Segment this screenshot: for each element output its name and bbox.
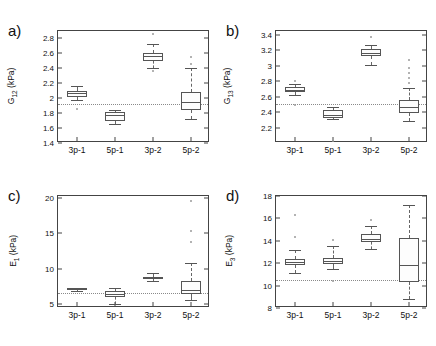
panel-a-ytick-mark-right (204, 143, 208, 144)
box-iqr (181, 281, 201, 294)
outlier-point (408, 67, 410, 69)
outlier-point (190, 230, 192, 232)
outlier-point (408, 59, 410, 61)
box-iqr (399, 238, 419, 282)
whisker-upper (409, 205, 410, 238)
whisker-upper (191, 263, 192, 281)
figure-boxplot-grid: a) G12 (kPa) 1.41.61.822.22.42.62.83p-15… (0, 0, 436, 346)
whisker-lower (409, 113, 410, 121)
panel-b-xtick-label-5p-1: 5p-1 (324, 141, 341, 155)
panel-d-ytick-label: 8 (268, 304, 276, 313)
panel-c-ytick-label: 15 (45, 229, 58, 238)
panel-d-xtick-label-5p-2: 5p-2 (400, 306, 417, 320)
panel-c-plot-area: 51015203p-15p-13p-25p-2 (57, 195, 209, 307)
cap-upper (403, 205, 415, 206)
cap-upper (185, 68, 197, 69)
panel-c-xtick-label-3p-2: 3p-2 (144, 306, 161, 320)
outlier-point (408, 72, 410, 74)
panel-b: b) G13 (kPa) 2.22.42.62.833.23.43p-15p-1… (218, 0, 436, 173)
panel-a-letter: a) (8, 22, 21, 39)
outlier-point (190, 63, 192, 65)
whisker-upper (409, 88, 410, 100)
panel-a-ytick-label: 2.4 (43, 64, 58, 73)
panel-c-letter: c) (8, 187, 21, 204)
panel-a-ytick-label: 2 (50, 94, 58, 103)
panel-d-ylabel: E3 (kPa) (224, 221, 236, 281)
panel-d-xtick-label-3p-1: 3p-1 (286, 306, 303, 320)
panel-b-ytick-label: 3.4 (261, 30, 276, 39)
panel-c-ytick-label: 10 (45, 264, 58, 273)
panel-c-ylabel-units: (kPa) (8, 235, 18, 255)
cap-lower (403, 121, 415, 122)
panel-a-ytick-label: 2.6 (43, 49, 58, 58)
panel-b-plot-area: 2.22.42.62.833.23.43p-15p-13p-25p-2 (275, 30, 427, 142)
median-line (181, 102, 201, 103)
whisker-upper (191, 68, 192, 92)
panel-a-ytick-label: 2.8 (43, 34, 58, 43)
panel-a-xtick-label-5p-1: 5p-1 (106, 141, 123, 155)
cap-lower (185, 119, 197, 120)
panel-b-ytick-label: 3 (268, 61, 276, 70)
panel-a-box-5p-2 (58, 31, 208, 141)
panel-b-box-5p-2 (276, 31, 426, 141)
panel-c-xtick-label-5p-1: 5p-1 (106, 306, 123, 320)
panel-d-xtick-label-5p-1: 5p-1 (324, 306, 341, 320)
panel-a-xtick-label-5p-2: 5p-2 (182, 141, 199, 155)
panel-b-ylabel-units: (kPa) (222, 68, 232, 88)
panel-a-ytick-label: 2.2 (43, 79, 58, 88)
panel-d: d) E3 (kPa) 810121416183p-15p-13p-25p-2 (218, 173, 436, 346)
panel-d-ytick-mark-right (422, 308, 426, 309)
panel-a-ytick-label: 1.8 (43, 109, 58, 118)
panel-c-xtick-label-5p-2: 5p-2 (182, 306, 199, 320)
outlier-point (408, 82, 410, 84)
cap-lower (185, 300, 197, 301)
outlier-point (190, 56, 192, 58)
panel-b-ytick-label: 2.6 (261, 92, 276, 101)
panel-b-xtick-label-3p-1: 3p-1 (286, 141, 303, 155)
panel-c-box-5p-2 (58, 196, 208, 306)
panel-d-ytick-label: 16 (263, 214, 276, 223)
panel-b-letter: b) (226, 22, 239, 39)
panel-c-ylabel-base: E (8, 261, 18, 267)
panel-d-ytick-label: 14 (263, 236, 276, 245)
cap-upper (185, 263, 197, 264)
panel-b-ytick-label: 3.2 (261, 46, 276, 55)
panel-d-plot-area: 810121416183p-15p-13p-25p-2 (275, 195, 427, 307)
panel-b-ytick-label: 2.8 (261, 77, 276, 86)
median-line (399, 107, 419, 108)
panel-a-ylabel: G12 (kPa) (6, 56, 18, 116)
panel-d-ylabel-units: (kPa) (224, 235, 234, 255)
whisker-lower (191, 110, 192, 119)
panel-a-xtick-label-3p-1: 3p-1 (68, 141, 85, 155)
panel-d-ytick-label: 18 (263, 192, 276, 201)
whisker-lower (409, 282, 410, 299)
panel-a-ytick-label: 1.6 (43, 124, 58, 133)
panel-c-ytick-label: 20 (45, 194, 58, 203)
panel-a-plot-area: 1.41.61.822.22.42.62.83p-15p-13p-25p-2 (57, 30, 209, 142)
panel-a: a) G12 (kPa) 1.41.61.822.22.42.62.83p-15… (0, 0, 218, 173)
outlier-point (190, 241, 192, 243)
panel-a-ylabel-units: (kPa) (6, 68, 16, 88)
panel-d-ytick-label: 10 (263, 281, 276, 290)
median-line (181, 290, 201, 291)
panel-b-xtick-label-3p-2: 3p-2 (362, 141, 379, 155)
panel-d-ytick-mark (276, 308, 280, 309)
outlier-point (408, 77, 410, 79)
panel-c: c) E1 (kPa) 51015203p-15p-13p-25p-2 (0, 173, 218, 346)
panel-d-box-5p-2 (276, 196, 426, 306)
panel-c-ylabel-sub: 1 (13, 258, 20, 262)
panel-d-ytick-label: 12 (263, 259, 276, 268)
panel-a-ylabel-sub: 12 (11, 90, 18, 97)
panel-b-xtick-label-5p-2: 5p-2 (400, 141, 417, 155)
panel-c-ylabel: E1 (kPa) (8, 221, 20, 281)
panel-d-ylabel-base: E (224, 261, 234, 267)
panel-b-ylabel-sub: 13 (227, 90, 234, 97)
median-line (399, 265, 419, 266)
panel-a-xtick-label-3p-2: 3p-2 (144, 141, 161, 155)
panel-d-ylabel-sub: 3 (229, 258, 236, 262)
panel-c-xtick-label-3p-1: 3p-1 (68, 306, 85, 320)
panel-b-ylabel: G13 (kPa) (222, 56, 234, 116)
cap-upper (403, 88, 415, 89)
panel-a-ytick-label: 1.4 (43, 139, 58, 148)
panel-d-xtick-label-3p-2: 3p-2 (362, 306, 379, 320)
